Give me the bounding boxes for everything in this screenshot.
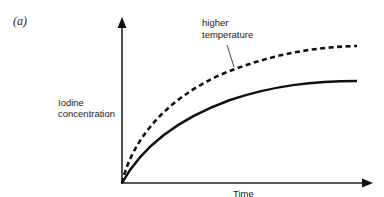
y-axis-label-line2: concentration	[58, 108, 115, 119]
y-axis-arrow-icon	[118, 17, 127, 28]
reaction-rate-diagram: (a) Iodine concentration Time higher tem…	[0, 0, 384, 197]
panel-label: (a)	[13, 14, 27, 29]
higher-temperature-curve	[122, 46, 357, 183]
annotation-line2: temperature	[202, 29, 253, 40]
x-axis-label: Time	[233, 189, 254, 197]
lower-temperature-curve	[122, 81, 357, 183]
x-axis-arrow-icon	[362, 179, 373, 188]
y-axis-label-line1: Iodine	[58, 97, 84, 108]
annotation-leader-line	[227, 45, 234, 67]
annotation-line1: higher	[202, 17, 228, 28]
